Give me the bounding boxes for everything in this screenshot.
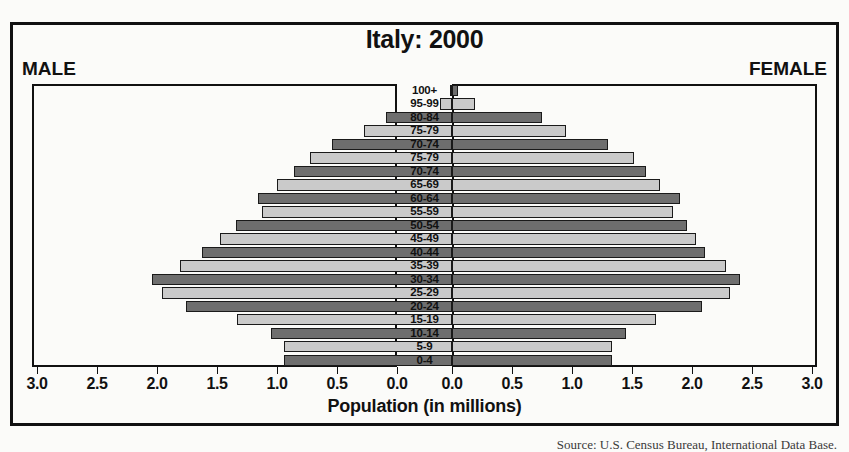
female-bar bbox=[452, 193, 680, 204]
female-bar bbox=[452, 287, 730, 298]
x-axis-tick bbox=[37, 367, 38, 374]
pyramid-row: 10-14 bbox=[0, 327, 849, 340]
pyramid-rows: 100+95-9980-8475-7970-7475-7970-7465-696… bbox=[0, 84, 849, 367]
female-bar bbox=[452, 355, 612, 366]
female-bar bbox=[452, 152, 634, 163]
female-bar bbox=[452, 247, 705, 258]
age-group-label: 5-9 bbox=[397, 340, 452, 353]
age-group-label: 100+ bbox=[397, 84, 452, 97]
x-axis-tick-label: 2.0 bbox=[137, 375, 177, 393]
pyramid-row: 0-4 bbox=[0, 354, 849, 367]
chart-title: Italy: 2000 bbox=[0, 25, 849, 54]
x-axis-tick bbox=[337, 367, 338, 374]
pyramid-row: 25-29 bbox=[0, 286, 849, 299]
male-side-label: MALE bbox=[22, 58, 76, 80]
x-axis-tick-label: 0.5 bbox=[492, 375, 532, 393]
female-bar bbox=[452, 341, 612, 352]
age-group-label: 0-4 bbox=[397, 354, 452, 367]
pyramid-row: 50-54 bbox=[0, 219, 849, 232]
x-axis-tick bbox=[572, 367, 573, 374]
x-axis-tick bbox=[157, 367, 158, 374]
pyramid-row: 15-19 bbox=[0, 313, 849, 326]
age-group-label: 15-19 bbox=[397, 313, 452, 326]
pyramid-row: 80-84 bbox=[0, 111, 849, 124]
age-group-label: 35-39 bbox=[397, 259, 452, 272]
age-group-label: 75-79 bbox=[397, 124, 452, 137]
pyramid-row: 60-64 bbox=[0, 192, 849, 205]
age-group-label: 75-79 bbox=[397, 151, 452, 164]
x-axis-tick bbox=[277, 367, 278, 374]
female-bar bbox=[452, 85, 458, 96]
population-pyramid-figure: Italy: 2000 MALE FEMALE 100+95-9980-8475… bbox=[0, 0, 849, 452]
age-group-label: 65-69 bbox=[397, 178, 452, 191]
x-axis-tick-label: 1.0 bbox=[257, 375, 297, 393]
pyramid-row: 40-44 bbox=[0, 246, 849, 259]
pyramid-row: 55-59 bbox=[0, 205, 849, 218]
female-bar bbox=[452, 166, 646, 177]
age-group-label: 80-84 bbox=[397, 111, 452, 124]
pyramid-row: 95-99 bbox=[0, 97, 849, 110]
pyramid-row: 30-34 bbox=[0, 273, 849, 286]
pyramid-row: 65-69 bbox=[0, 178, 849, 191]
x-axis-tick bbox=[452, 367, 453, 374]
age-group-label: 50-54 bbox=[397, 219, 452, 232]
x-axis-tick-label: 3.0 bbox=[792, 375, 832, 393]
x-axis-tick-label: 2.0 bbox=[672, 375, 712, 393]
female-bar bbox=[452, 125, 566, 136]
age-group-label: 60-64 bbox=[397, 192, 452, 205]
pyramid-row: 45-49 bbox=[0, 232, 849, 245]
female-bar bbox=[452, 98, 475, 109]
female-bar bbox=[452, 314, 656, 325]
female-bar bbox=[452, 274, 740, 285]
x-axis-tick bbox=[397, 367, 398, 374]
female-bar bbox=[452, 139, 608, 150]
pyramid-row: 100+ bbox=[0, 84, 849, 97]
age-group-label: 70-74 bbox=[397, 165, 452, 178]
pyramid-row: 75-79 bbox=[0, 151, 849, 164]
x-axis-tick-label: 2.5 bbox=[732, 375, 772, 393]
x-axis-tick bbox=[217, 367, 218, 374]
age-group-label: 10-14 bbox=[397, 327, 452, 340]
x-axis-tick-label: 1.5 bbox=[612, 375, 652, 393]
pyramid-row: 70-74 bbox=[0, 138, 849, 151]
x-axis-title: Population (in millions) bbox=[0, 396, 849, 417]
age-group-label: 70-74 bbox=[397, 138, 452, 151]
age-group-label: 30-34 bbox=[397, 273, 452, 286]
pyramid-row: 70-74 bbox=[0, 165, 849, 178]
age-group-label: 55-59 bbox=[397, 205, 452, 218]
x-axis-tick-label: 0.0 bbox=[432, 375, 472, 393]
source-note: Source: U.S. Census Bureau, Internationa… bbox=[0, 437, 849, 452]
x-axis-tick bbox=[512, 367, 513, 374]
x-axis-tick-label: 3.0 bbox=[17, 375, 57, 393]
age-group-label: 40-44 bbox=[397, 246, 452, 259]
pyramid-row: 5-9 bbox=[0, 340, 849, 353]
x-axis-tick-label: 2.5 bbox=[77, 375, 117, 393]
x-axis-tick-label: 0.5 bbox=[317, 375, 357, 393]
x-axis-tick bbox=[752, 367, 753, 374]
x-axis-tick bbox=[692, 367, 693, 374]
age-group-label: 20-24 bbox=[397, 300, 452, 313]
x-axis-tick bbox=[812, 367, 813, 374]
female-bar bbox=[452, 206, 673, 217]
pyramid-row: 35-39 bbox=[0, 259, 849, 272]
x-axis-tick-label: 1.5 bbox=[197, 375, 237, 393]
pyramid-row: 20-24 bbox=[0, 300, 849, 313]
age-group-label: 25-29 bbox=[397, 286, 452, 299]
female-bar bbox=[452, 260, 726, 271]
female-bar bbox=[452, 179, 660, 190]
x-axis-tick-label: 1.0 bbox=[552, 375, 592, 393]
x-axis-tick bbox=[97, 367, 98, 374]
female-bar bbox=[452, 301, 702, 312]
x-axis-tick-label: 0.0 bbox=[377, 375, 417, 393]
female-side-label: FEMALE bbox=[749, 58, 827, 80]
female-bar bbox=[452, 112, 542, 123]
age-group-label: 95-99 bbox=[397, 97, 452, 110]
x-axis-tick bbox=[632, 367, 633, 374]
female-bar bbox=[452, 233, 696, 244]
pyramid-row: 75-79 bbox=[0, 124, 849, 137]
female-bar bbox=[452, 220, 687, 231]
female-bar bbox=[452, 328, 626, 339]
age-group-label: 45-49 bbox=[397, 232, 452, 245]
